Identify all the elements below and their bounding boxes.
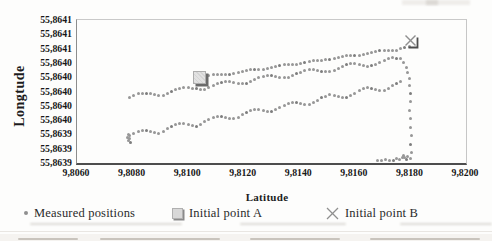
plot-area xyxy=(76,19,467,165)
measured-point xyxy=(308,103,311,106)
y-tick-label: 55,8640 xyxy=(28,56,72,67)
y-tick-label: 55,8640 xyxy=(28,114,72,125)
measured-point xyxy=(328,70,331,73)
x-tick-label: 9,8180 xyxy=(396,167,423,178)
measured-point xyxy=(153,131,156,134)
measured-point xyxy=(303,69,306,72)
scan-artifact-bottom-band xyxy=(0,234,492,241)
x-tick-label: 9,8160 xyxy=(340,167,367,178)
chart-canvas: Longtude 55,864155,864155,864155,864055,… xyxy=(0,0,492,241)
measured-point xyxy=(374,88,377,91)
y-tick-label: 55,8639 xyxy=(28,157,72,168)
measured-point xyxy=(295,72,298,75)
measured-point xyxy=(212,73,215,76)
measured-point xyxy=(141,92,144,95)
measured-point xyxy=(387,57,390,60)
measured-point xyxy=(383,59,386,62)
measured-point xyxy=(308,60,311,63)
y-tick-label: 55,8640 xyxy=(28,99,72,110)
measured-point xyxy=(137,130,140,133)
measured-point xyxy=(162,94,165,97)
measured-point xyxy=(387,49,390,52)
measured-point xyxy=(378,89,381,92)
measured-point xyxy=(341,96,344,99)
measured-point xyxy=(249,109,252,112)
measured-point xyxy=(299,102,302,105)
measured-point xyxy=(129,141,132,144)
figure-scatter-gps-positions: Longtude 55,864155,864155,864155,864055,… xyxy=(0,0,492,241)
x-tick-label: 9,8080 xyxy=(118,167,145,178)
measured-point xyxy=(274,108,277,111)
measured-point xyxy=(270,110,273,113)
scan-artifact-line-3 xyxy=(400,223,492,225)
measured-point xyxy=(262,109,265,112)
measured-point xyxy=(149,92,152,95)
measured-point xyxy=(349,54,352,57)
measured-point xyxy=(353,54,356,57)
legend-item-initial-point-a: Initial point A xyxy=(172,204,262,222)
measured-point xyxy=(137,92,140,95)
measured-point xyxy=(337,95,340,98)
measured-point xyxy=(166,92,169,95)
measured-point xyxy=(245,111,248,114)
y-tick-label: 55,8641 xyxy=(28,28,72,39)
initial-point-a-square-icon xyxy=(172,208,183,219)
measured-point xyxy=(132,94,135,97)
measured-point xyxy=(408,77,411,80)
measured-point xyxy=(278,64,281,67)
scan-artifact-line-2 xyxy=(240,223,346,225)
measured-point xyxy=(409,157,412,160)
measured-point xyxy=(287,63,290,66)
measured-point xyxy=(257,76,260,79)
measured-point xyxy=(237,71,240,74)
measured-point xyxy=(320,70,323,73)
measured-point xyxy=(320,59,323,62)
measured-point xyxy=(328,93,331,96)
measured-point xyxy=(232,117,235,120)
measured-positions-dot-icon xyxy=(24,211,28,215)
measured-point xyxy=(207,86,210,89)
legend-item-initial-point-b: Initial point B xyxy=(326,204,418,222)
measured-point xyxy=(141,129,144,132)
measured-point xyxy=(312,101,315,104)
scan-artifact-line-1 xyxy=(30,223,182,225)
measured-point xyxy=(257,68,260,71)
measured-point xyxy=(383,89,386,92)
measured-point xyxy=(366,65,369,68)
measured-point xyxy=(166,127,169,130)
measured-point xyxy=(170,90,173,93)
measured-point xyxy=(408,109,411,112)
measured-point xyxy=(353,62,356,65)
measured-point xyxy=(378,61,381,64)
y-tick-label: 55,8641 xyxy=(28,14,72,25)
measured-point xyxy=(128,96,131,99)
measured-point xyxy=(262,75,265,78)
measured-point xyxy=(249,80,252,83)
measured-point xyxy=(220,115,223,118)
measured-point xyxy=(249,68,252,71)
measured-point xyxy=(157,132,160,135)
measured-point xyxy=(395,57,398,60)
legend-label-measured-positions: Measured positions xyxy=(34,206,135,221)
measured-point xyxy=(149,130,152,133)
measured-point xyxy=(316,59,319,62)
measured-point xyxy=(228,73,231,76)
measured-point xyxy=(391,49,394,52)
measured-point xyxy=(303,61,306,64)
measured-point xyxy=(345,63,348,66)
measured-point xyxy=(195,125,198,128)
measured-point xyxy=(228,117,231,120)
measured-point xyxy=(376,159,379,162)
measured-point xyxy=(266,110,269,113)
measured-point xyxy=(324,58,327,61)
measured-point xyxy=(409,126,412,129)
measured-point xyxy=(387,87,390,90)
measured-point xyxy=(384,158,387,161)
measured-point xyxy=(374,50,377,53)
measured-point xyxy=(374,63,377,66)
measured-point xyxy=(241,82,244,85)
measured-point xyxy=(283,104,286,107)
measured-point xyxy=(362,53,365,56)
measured-point xyxy=(191,87,194,90)
measured-point xyxy=(224,80,227,83)
